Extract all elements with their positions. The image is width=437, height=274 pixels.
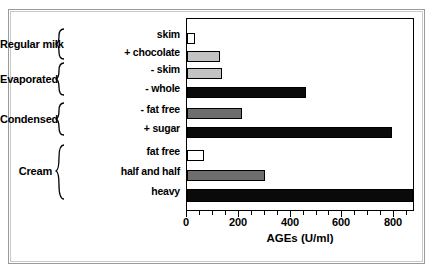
xtick-minor-850 [406, 211, 407, 215]
xtick-minor-650 [354, 211, 355, 215]
series-label-evaporated-whole: - whole [145, 82, 180, 94]
xtick-minor-150 [225, 211, 226, 215]
series-label-heavy: heavy [151, 185, 180, 197]
series-label-half-and-half: half and half [121, 165, 180, 177]
brace-cream [55, 144, 65, 200]
bar-cream-fat-free [187, 150, 204, 161]
xtick-label-600: 600 [321, 216, 361, 228]
xtick-minor-450 [303, 211, 304, 215]
series-label-condensed-fat-free: - fat free [141, 103, 180, 115]
series-label-chocolate: + chocolate [124, 46, 180, 58]
xtick-minor-50 [199, 211, 200, 215]
bar-evaporated-whole [187, 87, 306, 98]
series-label-cream-fat-free: fat free [147, 145, 180, 157]
bar-half-and-half [187, 170, 265, 181]
xtick-label-800: 800 [373, 216, 413, 228]
bar-condensed-fat-free [187, 108, 242, 119]
xtick-label-200: 200 [218, 216, 258, 228]
series-label-condensed-sugar: + sugar [144, 122, 180, 134]
group-label-cream: Cream [0, 165, 52, 177]
series-label-skim: skim [157, 28, 180, 40]
bar-chocolate [187, 51, 220, 62]
series-label-group: skim + chocolate - skim - whole - fat fr… [60, 0, 180, 214]
chart-figure: 0 200 400 600 800 AGEs (U/ml) skim + cho… [0, 0, 437, 274]
bars-layer [187, 19, 413, 210]
bar-heavy [187, 189, 413, 202]
bar-evaporated-skim [187, 68, 222, 79]
xtick-minor-100 [212, 211, 213, 215]
xtick-minor-750 [380, 211, 381, 215]
xtick-minor-250 [251, 211, 252, 215]
xtick-label-0: 0 [166, 216, 206, 228]
group-label-evaporated: Evaporated [0, 73, 52, 85]
xtick-minor-550 [328, 211, 329, 215]
bar-skim [187, 33, 195, 44]
series-label-evaporated-skim: - skim [151, 63, 180, 75]
xtick-minor-350 [277, 211, 278, 215]
xtick-minor-300 [264, 211, 265, 215]
group-label-regular-milk: Regular milk [0, 38, 52, 50]
xtick-minor-700 [367, 211, 368, 215]
group-label-condensed: Condensed [0, 113, 52, 125]
x-axis-label: AGEs (U/ml) [186, 232, 414, 244]
bar-condensed-sugar [187, 127, 392, 138]
xtick-label-400: 400 [270, 216, 310, 228]
xtick-minor-500 [316, 211, 317, 215]
